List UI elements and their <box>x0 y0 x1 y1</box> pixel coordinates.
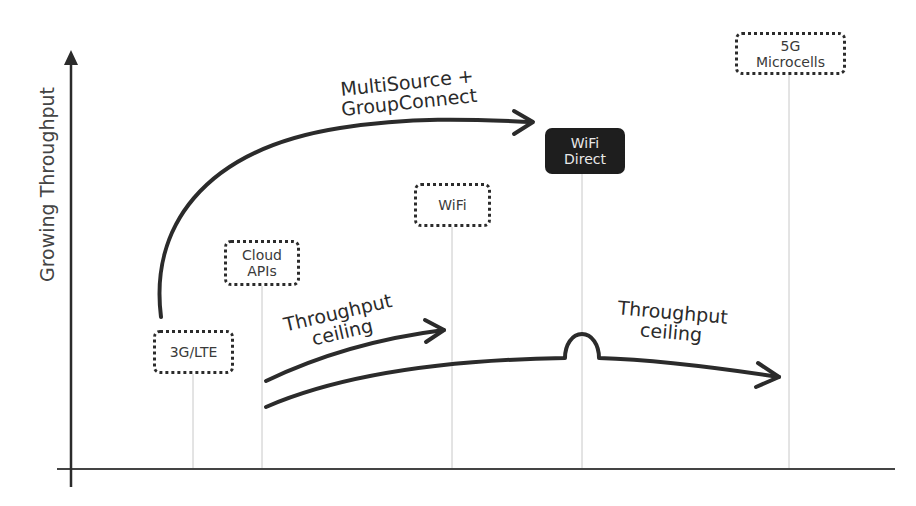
node-5g-microcells: 5G Microcells <box>735 32 846 75</box>
node-wifi-direct: WiFi Direct <box>545 128 625 174</box>
node-label: Cloud APIs <box>242 247 282 279</box>
y-axis-label: Growing Throughput <box>36 112 58 282</box>
node-label: WiFi Direct <box>564 135 606 167</box>
node-cloud-apis: Cloud APIs <box>224 240 300 286</box>
node-3g-lte: 3G/LTE <box>153 330 234 374</box>
node-label: 5G Microcells <box>756 38 825 70</box>
y-axis-arrow-icon <box>64 50 78 65</box>
node-label: 3G/LTE <box>170 344 218 360</box>
ceiling-right-curve <box>266 334 779 407</box>
node-wifi: WiFi <box>414 183 491 227</box>
node-label: WiFi <box>438 197 466 213</box>
